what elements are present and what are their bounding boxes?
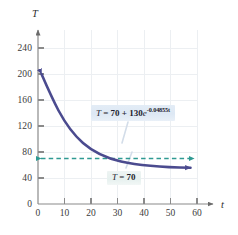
equation-lhs: T [96,108,101,118]
y-tick-label-200: 200 [6,69,32,79]
y-tick-label-160: 160 [6,95,32,105]
asymptote-value: 70 [127,172,136,182]
asymptote-equals: = [119,172,124,182]
y-tick-label-120: 120 [6,121,32,131]
y-tick-label-240: 240 [6,43,32,53]
equation-rhs-const: 70 + 130 [111,108,143,118]
x-tick-label-50: 50 [161,208,181,218]
asymptote-leader-line [126,152,132,168]
x-tick-label-30: 30 [108,208,128,218]
equation-annotation: T = 70 + 130e-0.04855t [91,105,175,121]
x-tick-label-40: 40 [134,208,154,218]
y-axis-title: T [32,8,38,19]
x-tick-label-20: 20 [81,208,101,218]
equation-exponent: -0.04855t [147,106,170,113]
x-tick-label-60: 60 [187,208,207,218]
asymptote-lhs: T [112,172,117,182]
x-tick-label-0: 0 [28,208,48,218]
y-tick-label-80: 80 [6,147,32,157]
x-axis-title: t [221,199,224,210]
x-tick-label-10: 10 [55,208,75,218]
equation-equals: = [103,108,108,118]
asymptote-annotation: T = 70 [107,171,141,185]
x-axis-ticks [65,198,198,204]
y-tick-label-40: 40 [6,173,32,183]
cooling-curve-figure: T t 240 200 160 120 80 40 0 0 10 20 30 4… [0,0,238,235]
equation-leader-line [122,122,128,143]
